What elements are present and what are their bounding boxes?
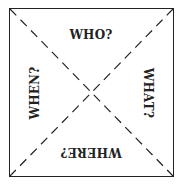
label-where: WHERE? bbox=[60, 145, 121, 159]
label-what: WHAT? bbox=[141, 68, 155, 118]
label-when: WHEN? bbox=[28, 67, 42, 120]
label-who: WHO? bbox=[69, 28, 112, 42]
